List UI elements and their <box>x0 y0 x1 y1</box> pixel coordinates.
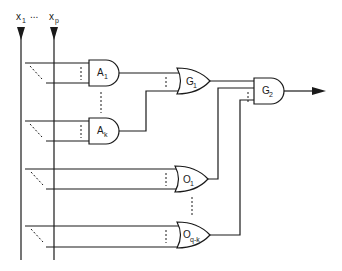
arrow-right-icon <box>312 87 326 95</box>
svg-text:1: 1 <box>22 17 26 24</box>
a-to-g1-wires <box>119 73 180 131</box>
svg-text:A: A <box>97 125 104 136</box>
logic-circuit-diagram: x 1 ... x p A 1 A k <box>0 0 342 271</box>
or-gate-o1: O 1 <box>175 166 208 192</box>
input-label-xp: x p <box>49 11 59 25</box>
ak-input-wires <box>25 121 89 141</box>
svg-text:1: 1 <box>104 73 108 80</box>
svg-text:A: A <box>97 67 104 78</box>
input-ellipsis: ... <box>30 9 38 20</box>
arrow-down-icon <box>50 27 58 40</box>
output-arrow <box>284 87 326 95</box>
arrow-down-icon <box>17 27 25 40</box>
and-gate-a1: A 1 <box>89 60 119 86</box>
and-gate-g2: G 2 <box>254 78 284 104</box>
svg-text:k: k <box>104 131 108 138</box>
input-label-x1: x 1 <box>16 11 26 24</box>
input-bus-x1 <box>17 27 25 260</box>
svg-text:q-k: q-k <box>190 236 200 244</box>
or-gate-oqk: O q-k <box>177 222 210 248</box>
and-gate-ak: A k <box>89 118 119 144</box>
svg-text:x: x <box>16 11 21 22</box>
o1-input-wires <box>25 169 178 189</box>
or-gate-g1: G 1 <box>177 68 210 94</box>
a1-input-wires <box>25 63 89 83</box>
o-to-g2-wires <box>208 88 254 235</box>
svg-text:1: 1 <box>190 180 194 187</box>
svg-text:p: p <box>55 17 59 25</box>
svg-text:1: 1 <box>193 82 197 89</box>
oqk-input-wires <box>25 226 180 247</box>
input-bus-xp <box>50 27 58 260</box>
svg-text:x: x <box>49 11 54 22</box>
svg-text:2: 2 <box>269 91 273 98</box>
